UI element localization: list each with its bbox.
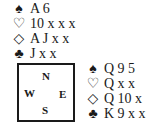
compass-south: S xyxy=(42,104,48,116)
diamond-icon: ◇ xyxy=(86,91,100,106)
east-hearts-row: ♡Q x x xyxy=(86,76,146,91)
compass-north: N xyxy=(42,70,50,82)
north-diamonds-row: ◇A J x x xyxy=(12,31,76,46)
heart-icon: ♡ xyxy=(86,76,100,91)
north-clubs-cards: J x x xyxy=(30,46,56,61)
east-spades-row: ♠Q 9 5 xyxy=(86,61,146,76)
north-clubs-row: ♣J x x xyxy=(12,46,76,61)
east-clubs-row: ♣K 9 x x xyxy=(86,106,146,121)
compass-east: E xyxy=(59,88,66,100)
east-clubs-cards: K 9 x x xyxy=(104,106,146,121)
east-spades-cards: Q 9 5 xyxy=(104,61,135,76)
spade-icon: ♠ xyxy=(86,61,100,76)
north-hearts-row: ♡10 x x x xyxy=(12,16,76,31)
east-hearts-cards: Q x x xyxy=(104,76,135,91)
club-icon: ♣ xyxy=(12,46,26,61)
north-spades-cards: A 6 xyxy=(30,1,50,16)
east-diamonds-cards: Q 10 x xyxy=(104,91,142,106)
north-hand: ♠A 6 ♡10 x x x ◇A J x x ♣J x x xyxy=(12,1,76,61)
compass-box: N W E S xyxy=(17,63,75,122)
compass-west: W xyxy=(24,87,35,99)
spade-icon: ♠ xyxy=(12,1,26,16)
north-spades-row: ♠A 6 xyxy=(12,1,76,16)
diamond-icon: ◇ xyxy=(12,31,26,46)
east-diamonds-row: ◇Q 10 x xyxy=(86,91,146,106)
north-diamonds-cards: A J x x xyxy=(30,31,69,46)
north-hearts-cards: 10 x x x xyxy=(30,16,76,31)
heart-icon: ♡ xyxy=(12,16,26,31)
club-icon: ♣ xyxy=(86,106,100,121)
east-hand: ♠Q 9 5 ♡Q x x ◇Q 10 x ♣K 9 x x xyxy=(86,61,146,121)
